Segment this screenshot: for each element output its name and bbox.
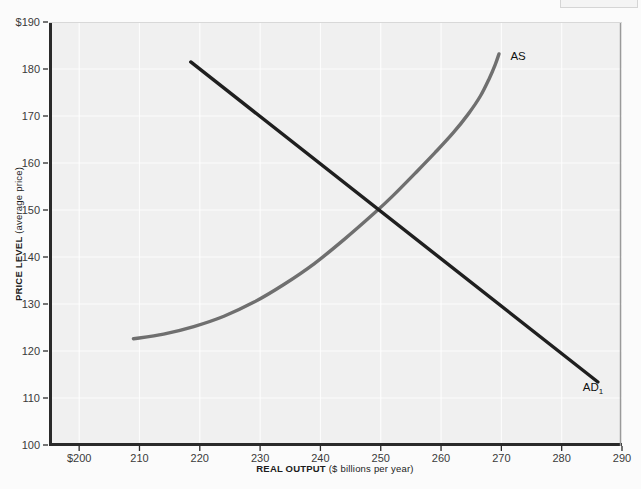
y-axis-ticks bbox=[43, 22, 48, 445]
y-tick-label: 120 bbox=[22, 345, 40, 357]
y-tick-label: 180 bbox=[22, 63, 40, 75]
x-tick-label: 290 bbox=[613, 452, 631, 464]
y-tick-label: 100 bbox=[22, 439, 40, 451]
x-tick-label: 270 bbox=[492, 452, 510, 464]
plot-svg: 100110120130140150160170180$190 $2002102… bbox=[0, 0, 641, 489]
y-tick-label: 150 bbox=[22, 204, 40, 216]
x-tick-label: 220 bbox=[191, 452, 209, 464]
y-tick-label: 160 bbox=[22, 157, 40, 169]
y-tick-label: 110 bbox=[22, 392, 40, 404]
x-axis-ticks bbox=[79, 446, 622, 451]
chart-page: 100110120130140150160170180$190 $2002102… bbox=[0, 0, 641, 489]
aggregate-supply-demand-chart: 100110120130140150160170180$190 $2002102… bbox=[0, 0, 641, 489]
y-tick-label: 130 bbox=[22, 298, 40, 310]
x-tick-label: $200 bbox=[67, 452, 91, 464]
y-tick-label: 140 bbox=[22, 251, 40, 263]
y-tick-label: $190 bbox=[16, 16, 40, 28]
x-tick-label: 210 bbox=[130, 452, 148, 464]
x-tick-label: 280 bbox=[553, 452, 571, 464]
x-axis-title: REAL OUTPUT ($ billions per year) bbox=[256, 463, 413, 474]
y-tick-label: 170 bbox=[22, 110, 40, 122]
y-axis-title: PRICE LEVEL (average price) bbox=[13, 167, 24, 301]
plot-area-background bbox=[49, 22, 622, 446]
x-tick-label: 260 bbox=[432, 452, 450, 464]
as-curve-label: AS bbox=[510, 50, 526, 62]
